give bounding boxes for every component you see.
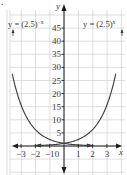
y-tick-label: 25 <box>52 76 62 86</box>
y-axis-label: y <box>55 1 60 11</box>
curve-2.5-pow-neg-x <box>12 74 90 146</box>
label-2.5-pow-x: y = (2.5)x <box>83 19 116 29</box>
label-pointer-arrow-icon <box>12 29 15 33</box>
x-tick-label: 0 <box>55 149 60 159</box>
x-tick-label: −3 <box>16 149 26 159</box>
x-axis-label: x <box>118 147 123 157</box>
y-tick-label: 10 <box>52 115 62 125</box>
x-tick-label: −2 <box>31 149 41 159</box>
label-2.5-pow-neg-x: y = (2.5)−x <box>8 19 44 29</box>
x-tick-label: −1 <box>45 149 55 159</box>
y-tick-label: 20 <box>52 89 62 99</box>
corner-mark: . <box>1 0 4 7</box>
curve-labels: y = (2.5)−xy = (2.5)x <box>8 19 124 36</box>
x-tick-label: 1 <box>76 149 81 159</box>
y-tick-label: 40 <box>52 36 62 46</box>
x-tick-label: 3 <box>105 149 110 159</box>
x-tick-label: 2 <box>90 149 95 159</box>
y-tick-label: 45 <box>52 23 62 33</box>
y-axis-down-arrow-icon <box>62 167 67 174</box>
y-axis-up-arrow-icon <box>62 4 67 11</box>
y-tick-label: 35 <box>52 49 62 59</box>
y-tick-label: 5 <box>57 128 62 138</box>
exponential-graph: −3−2−10123x51015202530354045y y = (2.5)−… <box>0 0 127 175</box>
x-axis-left-arrow-icon <box>12 144 18 149</box>
y-tick-label: 30 <box>52 62 62 72</box>
y-tick-label: 15 <box>52 102 62 112</box>
label-pointer-arrow-icon <box>121 29 124 33</box>
